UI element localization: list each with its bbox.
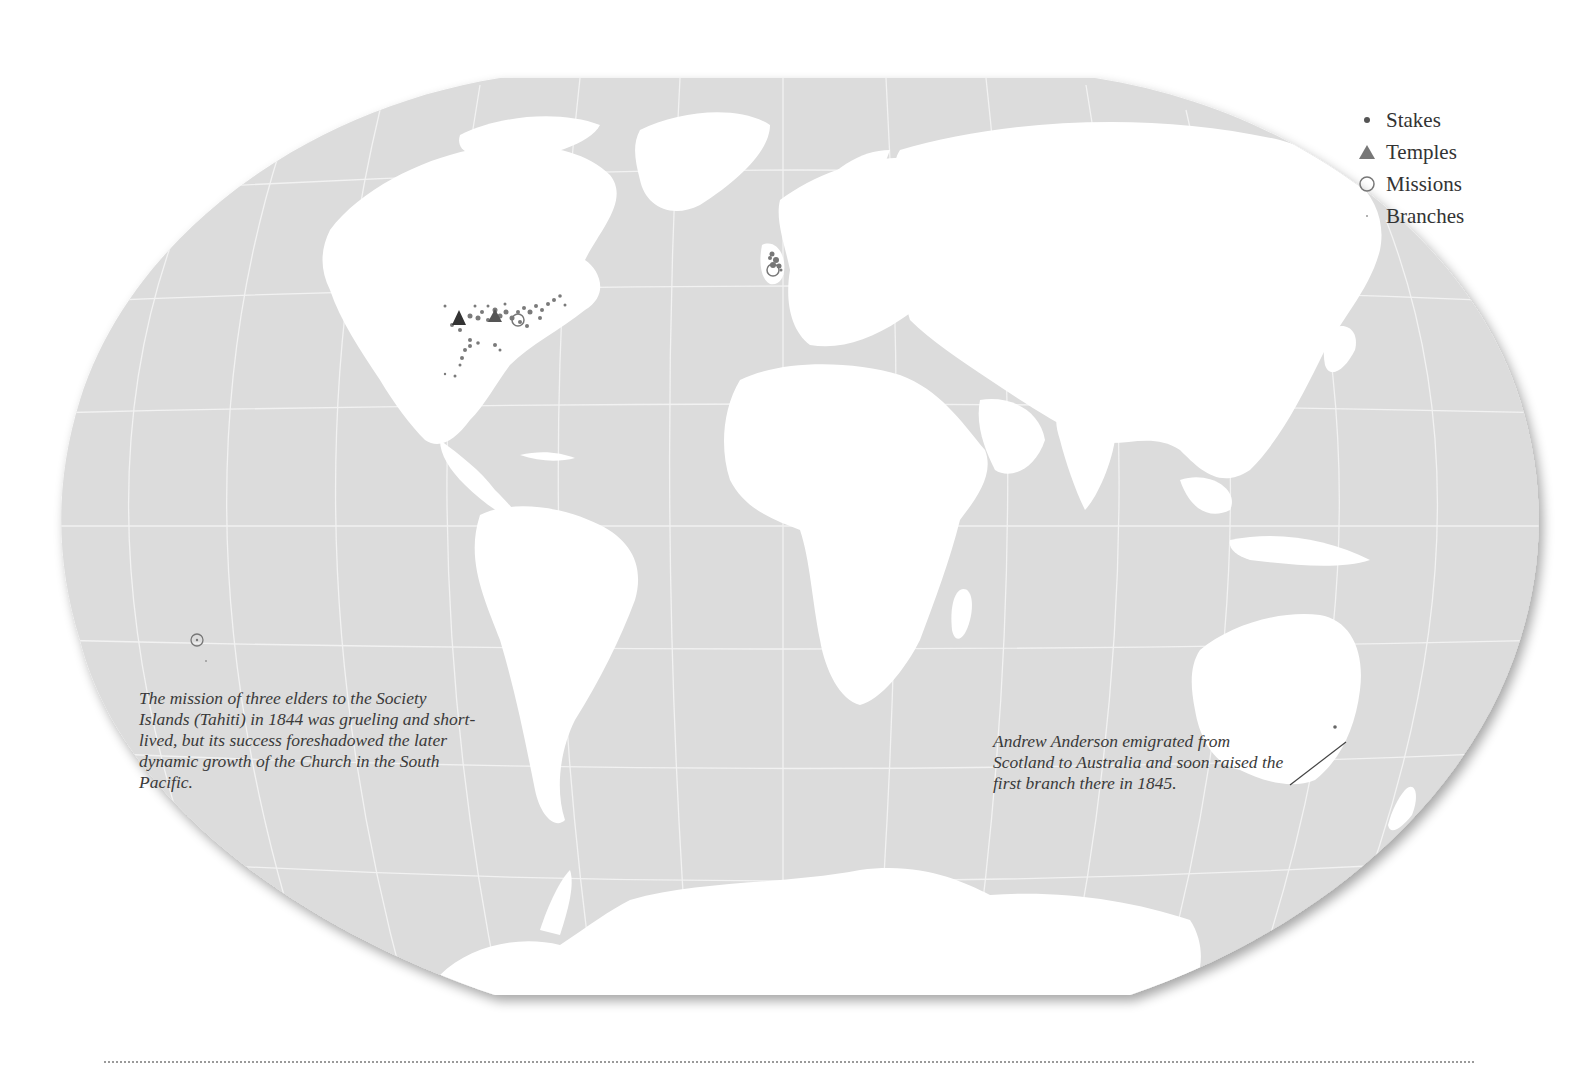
- legend-item-stakes: Stakes: [1352, 104, 1464, 136]
- temple-triangle-icon: [1352, 136, 1382, 168]
- stake-dot-icon: [1352, 104, 1382, 136]
- legend-label: Missions: [1386, 168, 1462, 200]
- annotation-australia-branch: Andrew Anderson emigrated from Scotland …: [993, 731, 1293, 794]
- branch-dot-icon: [1352, 200, 1382, 232]
- legend-label: Temples: [1386, 136, 1457, 168]
- legend-label: Stakes: [1386, 104, 1441, 136]
- legend-label: Branches: [1386, 200, 1464, 232]
- legend-item-branches: Branches: [1352, 200, 1464, 232]
- dotted-divider: [104, 1061, 1474, 1063]
- branch-marker-australia: [1333, 725, 1337, 729]
- legend-item-missions: Missions: [1352, 168, 1464, 200]
- annotation-tahiti-mission: The mission of three elders to the Socie…: [139, 688, 479, 793]
- legend-item-temples: Temples: [1352, 136, 1464, 168]
- map-legend: Stakes Temples Missions Branches: [1352, 104, 1464, 232]
- mission-circle-icon: [1352, 168, 1382, 200]
